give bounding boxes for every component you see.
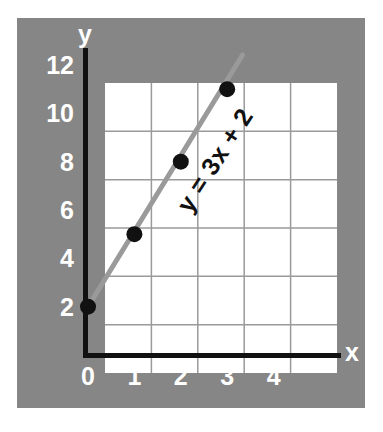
x-tick-label: 4 <box>259 364 289 389</box>
figure-root: y = 3x + 2 y x 12 10 8 6 4 2 0 1 2 3 4 <box>0 0 383 432</box>
x-axis-line <box>83 353 341 358</box>
y-tick-label: 10 <box>30 101 74 126</box>
y-tick-label: 8 <box>30 149 74 174</box>
y-tick-label: 12 <box>30 53 74 78</box>
x-tick-label: 1 <box>119 364 149 389</box>
x-tick-label: 0 <box>73 364 103 389</box>
x-tick-label: 3 <box>212 364 242 389</box>
y-tick-label: 6 <box>30 198 74 223</box>
y-tick-label: 2 <box>30 294 74 319</box>
y-tick-label: 4 <box>30 246 74 271</box>
x-tick-label: 2 <box>166 364 196 389</box>
x-axis-label: x <box>345 340 359 365</box>
y-axis-line <box>83 48 88 358</box>
y-axis-label: y <box>78 22 92 47</box>
